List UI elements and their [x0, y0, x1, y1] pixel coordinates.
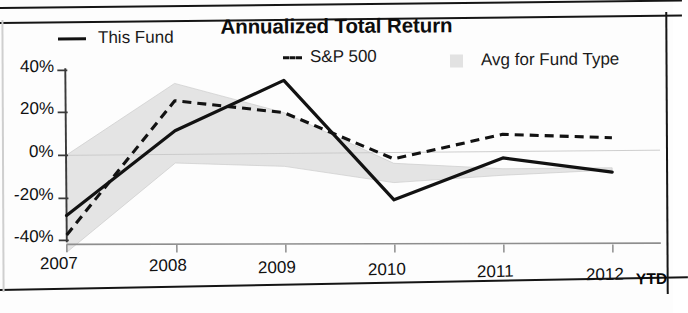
- solid-line-swatch-icon: [58, 37, 86, 40]
- x-axis-tick-label: 2012: [586, 264, 624, 285]
- x-axis-tick-label: 2008: [149, 256, 187, 277]
- x-axis-tick-label: 2010: [367, 260, 405, 281]
- x-axis-ticks: [67, 240, 613, 258]
- legend-label-avg-for-fund-type: Avg for Fund Type: [481, 49, 619, 70]
- x-axis-tick-label: 2011: [477, 262, 514, 283]
- y-axis-tick-label: -20%: [14, 185, 54, 205]
- legend-item-this-fund[interactable]: This Fund: [58, 28, 174, 49]
- legend-item-avg-for-fund-type[interactable]: Avg for Fund Type: [450, 49, 619, 70]
- legend-label-this-fund: This Fund: [98, 28, 174, 49]
- avg-fund-type-band: [65, 80, 612, 253]
- x-axis-line: [67, 239, 661, 248]
- y-axis-tick-label: 20%: [20, 99, 54, 119]
- dashed-line-swatch-icon: [283, 56, 302, 59]
- y-axis-tick-label: -40%: [14, 227, 54, 247]
- legend-label-sp500: S&P 500: [310, 47, 377, 67]
- y-axis-tick-label: 40%: [20, 57, 54, 77]
- y-axis-tick-label: 0%: [29, 142, 54, 162]
- legend-item-sp500[interactable]: S&P 500: [283, 47, 377, 68]
- x-axis-tick-label: 2009: [258, 258, 296, 279]
- gray-box-swatch-icon: [450, 54, 463, 67]
- x-axis-ytd-suffix-label: YTD: [636, 269, 667, 288]
- x-axis-tick-label: 2007: [40, 254, 78, 275]
